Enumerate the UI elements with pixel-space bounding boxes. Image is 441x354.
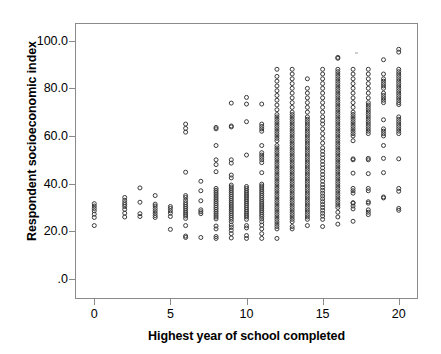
data-point bbox=[245, 95, 249, 99]
data-point bbox=[275, 93, 279, 97]
data-point bbox=[351, 91, 355, 95]
data-point bbox=[305, 77, 309, 81]
data-point bbox=[275, 236, 279, 240]
data-point bbox=[290, 77, 294, 81]
data-point bbox=[397, 157, 401, 161]
data-point bbox=[290, 96, 294, 100]
x-tick-mark bbox=[94, 299, 95, 305]
data-point bbox=[92, 224, 96, 228]
data-point bbox=[305, 110, 309, 114]
y-tick-mark bbox=[69, 279, 75, 280]
data-point bbox=[260, 236, 264, 240]
data-point bbox=[260, 102, 264, 106]
data-point bbox=[305, 101, 309, 105]
stray-speck bbox=[355, 52, 358, 54]
data-point bbox=[229, 101, 233, 105]
x-tick-label: 5 bbox=[167, 307, 174, 321]
y-tick-mark bbox=[69, 136, 75, 137]
data-point bbox=[366, 77, 370, 81]
data-point bbox=[336, 215, 340, 219]
data-point bbox=[275, 103, 279, 107]
data-point bbox=[275, 74, 279, 78]
y-axis-tick-labels: .020.040.060.080.0100.0 bbox=[18, 23, 68, 299]
data-point bbox=[245, 120, 249, 124]
data-point bbox=[351, 72, 355, 76]
data-point bbox=[321, 127, 325, 131]
data-point bbox=[366, 96, 370, 100]
data-point bbox=[199, 199, 203, 203]
data-point bbox=[305, 86, 309, 90]
data-point bbox=[260, 171, 264, 175]
data-point bbox=[351, 101, 355, 105]
data-point bbox=[366, 82, 370, 86]
data-point bbox=[366, 86, 370, 90]
data-point bbox=[260, 144, 264, 148]
data-point bbox=[138, 200, 142, 204]
data-point bbox=[305, 105, 309, 109]
y-tick-label: 80.0 bbox=[44, 81, 68, 95]
data-point bbox=[336, 222, 340, 226]
data-point bbox=[366, 91, 370, 95]
y-tick-label: 20.0 bbox=[44, 224, 68, 238]
data-point bbox=[397, 47, 401, 51]
x-tick-mark bbox=[399, 299, 400, 305]
data-point bbox=[321, 91, 325, 95]
data-point bbox=[260, 232, 264, 236]
y-tick-mark bbox=[69, 231, 75, 232]
x-tick-label: 0 bbox=[91, 307, 98, 321]
data-point bbox=[351, 82, 355, 86]
data-point bbox=[184, 224, 188, 228]
data-point bbox=[321, 77, 325, 81]
data-point bbox=[382, 156, 386, 160]
data-point bbox=[245, 153, 249, 157]
data-point bbox=[214, 158, 218, 162]
data-point bbox=[351, 139, 355, 143]
data-point bbox=[290, 105, 294, 109]
data-point bbox=[321, 96, 325, 100]
data-point bbox=[138, 186, 142, 190]
x-tick-mark bbox=[247, 299, 248, 305]
plot-area bbox=[75, 23, 418, 299]
data-point bbox=[382, 72, 386, 76]
data-point bbox=[321, 225, 325, 229]
scatter-points-layer bbox=[76, 24, 417, 298]
data-point bbox=[351, 77, 355, 81]
data-point bbox=[397, 186, 401, 190]
data-point bbox=[351, 67, 355, 71]
data-point bbox=[305, 96, 309, 100]
data-point bbox=[290, 91, 294, 95]
y-tick-mark bbox=[69, 41, 75, 42]
data-point bbox=[275, 98, 279, 102]
data-point bbox=[290, 86, 294, 90]
data-point bbox=[290, 72, 294, 76]
data-point bbox=[214, 224, 218, 228]
data-point bbox=[184, 122, 188, 126]
data-point bbox=[275, 84, 279, 88]
data-point bbox=[305, 91, 309, 95]
data-point bbox=[321, 141, 325, 145]
data-point bbox=[229, 173, 233, 177]
data-point bbox=[321, 72, 325, 76]
x-tick-label: 10 bbox=[240, 307, 254, 321]
x-tick-label: 20 bbox=[392, 307, 406, 321]
y-tick-label: 100.0 bbox=[37, 34, 68, 48]
data-point bbox=[214, 170, 218, 174]
data-point bbox=[275, 108, 279, 112]
data-point bbox=[336, 210, 340, 214]
data-point bbox=[382, 58, 386, 62]
data-point bbox=[290, 67, 294, 71]
data-point bbox=[290, 82, 294, 86]
data-point bbox=[199, 189, 203, 193]
y-tick-mark bbox=[69, 88, 75, 89]
data-point bbox=[290, 101, 294, 105]
y-tick-label: 60.0 bbox=[44, 129, 68, 143]
data-point bbox=[382, 171, 386, 175]
x-tick-mark bbox=[323, 299, 324, 305]
data-point bbox=[351, 86, 355, 90]
data-point bbox=[275, 89, 279, 93]
x-tick-mark bbox=[170, 299, 171, 305]
data-point bbox=[351, 219, 355, 223]
data-point bbox=[214, 163, 218, 167]
data-point bbox=[321, 105, 325, 109]
data-point bbox=[382, 144, 386, 148]
